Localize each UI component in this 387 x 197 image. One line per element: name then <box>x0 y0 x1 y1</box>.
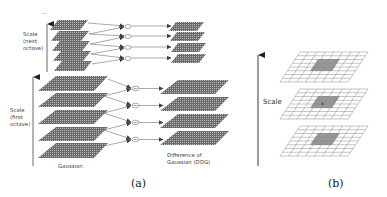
dog-plane <box>171 43 206 52</box>
grid-layer-middle: x <box>280 89 368 119</box>
gaussian-plane <box>38 93 108 107</box>
next-octave-label-2: (next <box>23 38 37 44</box>
dog-plane <box>160 97 229 111</box>
grid-layer-top <box>280 52 368 82</box>
gaussian-plane <box>38 76 108 91</box>
scale-label: Scale <box>263 98 282 106</box>
dog-plane <box>160 131 229 145</box>
panel-b-caption: (b) <box>328 177 344 190</box>
next-octave-label-3: octave) <box>23 45 43 51</box>
gaussian-plane <box>50 20 88 30</box>
subtract-node <box>125 46 131 50</box>
next-octave-label-1: Scale <box>23 31 38 37</box>
subtract-node <box>125 57 131 61</box>
svg-text:x: x <box>321 100 324 106</box>
first-octave-label-2: (first <box>10 114 23 120</box>
dog-label-2: Gaussian (DOG) <box>167 159 210 165</box>
panel-b: Scale <box>258 52 368 190</box>
gaussian-plane <box>54 61 92 71</box>
dog-plane <box>160 114 229 128</box>
dog-label-1: Difference of <box>167 152 202 158</box>
next-octave-dog-stack <box>169 22 206 63</box>
gaussian-plane <box>53 51 91 61</box>
next-octave-subtract-nodes <box>125 25 131 61</box>
sift-diagram: ... Scale (next octave) <box>0 0 387 197</box>
panel-a: ... Scale (next octave) <box>10 9 229 190</box>
gaussian-label: Gaussian <box>58 163 83 169</box>
dog-plane <box>171 54 206 63</box>
first-octave-label-1: Scale <box>10 107 25 113</box>
first-octave-subtract-nodes <box>132 86 139 142</box>
gaussian-plane <box>38 143 108 158</box>
gaussian-plane <box>38 110 108 124</box>
dog-plane <box>169 22 204 31</box>
first-octave-dog-stack <box>160 80 229 145</box>
gaussian-plane <box>38 127 108 141</box>
panel-a-caption: (a) <box>131 177 146 190</box>
first-octave-label-3: octave) <box>10 121 30 127</box>
first-octave-gaussian-stack <box>38 76 108 158</box>
subtract-node <box>125 25 131 29</box>
subtract-node <box>125 35 131 39</box>
ellipsis: ... <box>42 9 47 15</box>
next-octave-gaussian-stack <box>50 20 92 71</box>
dog-plane <box>170 32 205 41</box>
grid-layer-bottom <box>280 126 368 156</box>
dog-plane <box>160 80 229 94</box>
gaussian-plane <box>51 31 89 41</box>
gaussian-plane <box>52 41 90 51</box>
